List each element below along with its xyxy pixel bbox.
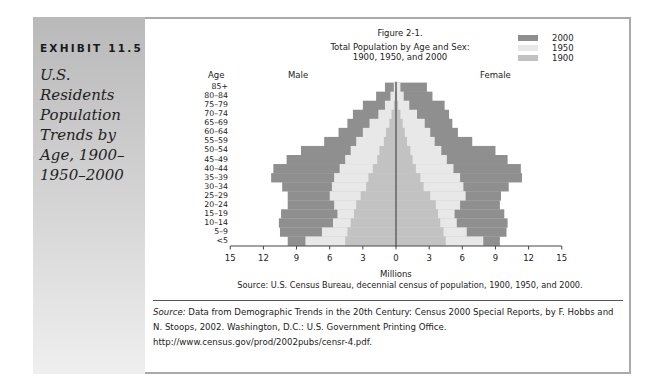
bar-1900-female (396, 164, 416, 173)
bar-1900-male (377, 155, 396, 164)
x-tick-label: 6 (320, 253, 340, 263)
bar-1900-female (396, 119, 403, 128)
bar-1900-female (396, 236, 446, 245)
x-tick-label: 3 (353, 253, 373, 263)
bar-1900-male (384, 137, 396, 146)
bar-1900-male (366, 182, 396, 191)
bar-1900-male (356, 200, 396, 209)
bar-1900-male (379, 146, 396, 155)
x-tick-label: 9 (485, 253, 505, 263)
bar-1900-female (396, 182, 424, 191)
bar-1900-male (368, 173, 396, 182)
x-tick-label: 12 (253, 253, 273, 263)
bar-1900-male (354, 209, 396, 218)
x-tick-label: 6 (452, 253, 472, 263)
x-tick-label: 0 (386, 253, 406, 263)
bar-1900-female (396, 227, 444, 236)
bar-1900-female (396, 209, 438, 218)
figure-source: Source: U.S. Census Bureau, decennial ce… (200, 280, 620, 290)
bar-1900-male (389, 119, 396, 128)
bar-1900-female (396, 173, 420, 182)
bar-1900-male (345, 236, 396, 245)
x-tick-label: 3 (419, 253, 439, 263)
x-axis-label: Millions (380, 269, 412, 279)
bar-1900-female (396, 218, 440, 227)
x-tick-label: 15 (220, 253, 240, 263)
bar-1900-male (373, 164, 396, 173)
bar-2000-female (396, 83, 427, 92)
bar-1900-female (396, 155, 413, 164)
bar-1950-female (396, 83, 400, 92)
bar-1900-female (396, 110, 400, 119)
divider (153, 300, 623, 301)
bar-1900-female (396, 146, 410, 155)
bar-1900-male (392, 110, 396, 119)
citation-lead: Source: (153, 307, 186, 317)
bar-1900-female (396, 137, 407, 146)
bar-1900-male (386, 128, 396, 137)
bar-1900-male (351, 218, 396, 227)
citation: Source: Data from Demographic Trends in … (153, 305, 625, 350)
bar-1900-female (396, 200, 436, 209)
x-tick-label: 9 (287, 253, 307, 263)
bar-1900-female (396, 191, 430, 200)
bar-1900-female (396, 128, 405, 137)
x-tick-label: 12 (519, 253, 539, 263)
bar-1900-male (361, 191, 396, 200)
x-tick-label: 15 (552, 253, 572, 263)
bar-1900-male (347, 227, 396, 236)
citation-text: Data from Demographic Trends in the 20th… (153, 307, 614, 347)
bar-1950-female (396, 92, 404, 101)
